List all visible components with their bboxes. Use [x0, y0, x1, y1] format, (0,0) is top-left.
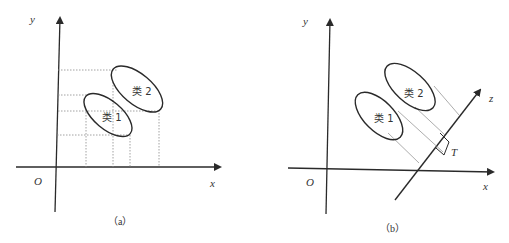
y-axis-b — [326, 20, 330, 214]
class1-label-b: 类 1 — [374, 112, 394, 124]
panel-b: T 类 1 类 2 y x z O （b） — [288, 15, 494, 234]
class1-label-a: 类 1 — [102, 111, 122, 123]
y-axis-a — [55, 18, 60, 212]
diagram-canvas: 类 1 类 2 y x O （a） T 类 1 类 2 y — [0, 0, 509, 243]
caption-a: （a） — [108, 216, 132, 227]
origin-label-b: O — [306, 176, 314, 188]
class2-label-a: 类 2 — [132, 85, 152, 97]
panel-a: 类 1 类 2 y x O （a） — [16, 13, 220, 227]
class2-ellipse-b — [377, 55, 443, 119]
x-axis-label-b: x — [482, 180, 488, 192]
z-axis-b — [395, 90, 480, 200]
y-axis-label-b: y — [302, 15, 308, 27]
origin-label-a: O — [34, 175, 42, 187]
caption-b: （b） — [380, 223, 405, 234]
figure: 类 1 类 2 y x O （a） T 类 1 类 2 y — [0, 0, 509, 243]
x-axis-b — [288, 168, 493, 172]
class2-label-b: 类 2 — [404, 87, 424, 99]
x-axis-label-a: x — [209, 177, 215, 189]
y-axis-label-a: y — [29, 13, 35, 25]
threshold-label: T — [451, 146, 458, 158]
z-axis-label-b: z — [488, 92, 494, 104]
